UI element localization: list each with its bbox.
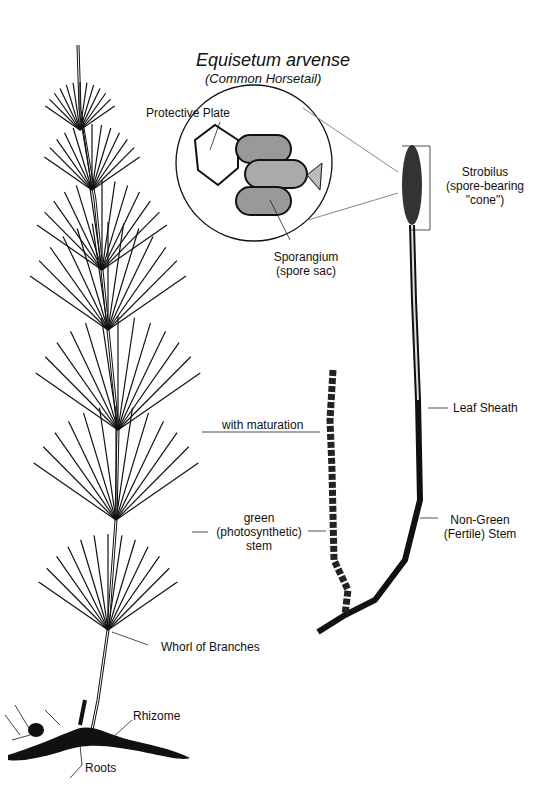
branch [44, 157, 92, 190]
label-rhizome: Rhizome [133, 709, 180, 723]
branch [108, 556, 159, 630]
branch [102, 225, 167, 270]
label-green-3: stem [212, 539, 306, 553]
label-strobilus-sub2: "cone") [440, 193, 530, 207]
branch [55, 433, 116, 520]
label-non-green-stem: Non-Green (Fertile) Stem [430, 513, 530, 541]
label-sporangium-name: Sporangium [268, 250, 344, 264]
label-leaf-sheath: Leaf Sheath [453, 401, 518, 415]
branch [116, 463, 198, 520]
branch [37, 225, 102, 270]
strobilus-cone [402, 145, 422, 225]
label-green-1: green [212, 511, 306, 525]
branch [57, 556, 108, 630]
label-strobilus-sub1: (spore-bearing [440, 179, 530, 193]
branch [80, 93, 106, 130]
diagram-title: Equisetum arvense [196, 50, 350, 71]
horsetail-diagram: Equisetum arvense (Common Horsetail) Pro… [0, 0, 534, 811]
branch [108, 276, 186, 330]
label-sporangium-sub: (spore sac) [268, 264, 344, 278]
diagram-subtitle: (Common Horsetail) [205, 71, 321, 86]
branch [118, 343, 179, 430]
label-strobilus: Strobilus (spore-bearing "cone") [440, 165, 530, 207]
label-roots: Roots [85, 761, 116, 775]
label-with-maturation: with maturation [222, 418, 303, 432]
immature-green-stem [330, 370, 348, 615]
branch [34, 463, 116, 520]
sterile-plant [30, 45, 200, 740]
branch [54, 93, 80, 130]
label-nongreen-2: (Fertile) Stem [430, 527, 530, 541]
branch [57, 343, 118, 430]
label-nongreen-1: Non-Green [430, 513, 530, 527]
branch [30, 276, 108, 330]
label-sporangium: Sporangium (spore sac) [268, 250, 344, 278]
label-strobilus-name: Strobilus [440, 165, 530, 179]
label-green-2: (photosynthetic) [212, 525, 306, 539]
branch [92, 139, 127, 190]
branch [102, 201, 150, 270]
branch [92, 157, 140, 190]
label-protective-plate: Protective Plate [146, 106, 230, 120]
branch [39, 582, 108, 630]
branch [108, 582, 177, 630]
branch [116, 433, 177, 520]
branch [36, 373, 118, 430]
label-whorl-of-branches: Whorl of Branches [161, 640, 260, 654]
fertile-stem [318, 145, 422, 632]
label-green-stem: green (photosynthetic) stem [212, 511, 306, 553]
